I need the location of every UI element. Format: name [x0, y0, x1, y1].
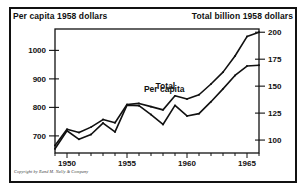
series-annotation: Per capita	[144, 84, 185, 94]
data-point	[222, 88, 224, 90]
line-chart-plot: 1950195519601965700800900100010012515017…	[9, 7, 297, 183]
data-point	[54, 145, 56, 147]
data-point	[126, 104, 128, 106]
data-point	[54, 148, 56, 150]
y-left-tick-label: 800	[33, 103, 47, 112]
data-point	[258, 64, 260, 66]
data-point	[114, 122, 116, 124]
x-tick-label: 1950	[58, 159, 76, 168]
data-point	[210, 83, 212, 85]
data-point	[90, 126, 92, 128]
data-point	[150, 106, 152, 108]
data-point	[162, 124, 164, 126]
data-point	[162, 109, 164, 111]
y-right-tick-label: 200	[268, 28, 282, 37]
y-left-tick-label: 900	[33, 75, 47, 84]
data-point	[246, 36, 248, 38]
data-point	[78, 138, 80, 140]
y-right-tick-label: 175	[268, 55, 282, 64]
data-point	[66, 130, 68, 132]
data-point	[198, 94, 200, 96]
data-point	[234, 55, 236, 57]
series-line-per-capita	[55, 65, 259, 149]
x-tick-label: 1955	[118, 159, 136, 168]
data-point	[90, 134, 92, 136]
y-left-tick-label: 700	[33, 132, 47, 141]
x-tick-label: 1965	[238, 159, 256, 168]
data-point	[186, 115, 188, 117]
data-point	[174, 95, 176, 97]
y-right-tick-label: 150	[268, 82, 282, 91]
data-point	[210, 101, 212, 103]
axes-layer: 1950195519601965700800900100010012515017…	[28, 28, 282, 168]
data-point	[258, 31, 260, 33]
data-point	[186, 98, 188, 100]
annotation-layer: TotalPer capita	[144, 81, 185, 93]
x-tick-label: 1960	[178, 159, 196, 168]
data-point	[78, 132, 80, 134]
data-point	[114, 131, 116, 133]
copyright-notice: Copyright by Rand M. Nally & Company	[14, 169, 88, 174]
chart-figure: Per capita 1958 dollars Total billion 19…	[0, 0, 306, 190]
data-point	[246, 65, 248, 67]
data-point	[198, 113, 200, 115]
data-point	[102, 122, 104, 124]
data-point	[150, 114, 152, 116]
data-point	[138, 102, 140, 104]
y-right-tick-label: 100	[268, 136, 282, 145]
data-point	[174, 104, 176, 106]
y-left-tick-label: 1000	[28, 46, 46, 55]
data-point	[222, 71, 224, 73]
data-point	[234, 75, 236, 77]
data-point	[138, 105, 140, 107]
y-right-tick-label: 125	[268, 109, 282, 118]
data-point	[102, 119, 104, 121]
